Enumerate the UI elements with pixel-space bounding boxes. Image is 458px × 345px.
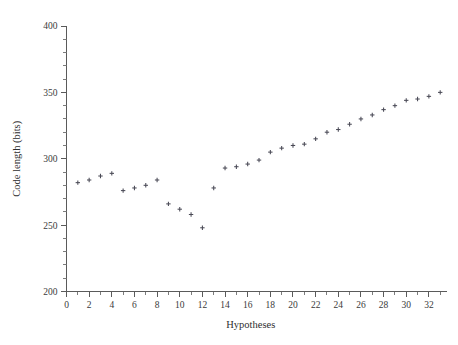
y-axis-tick-label: 250 bbox=[43, 221, 58, 231]
data-point bbox=[87, 178, 91, 182]
data-point bbox=[347, 122, 351, 126]
data-point bbox=[245, 162, 249, 166]
x-axis: 02468101214161820222426283032 bbox=[64, 292, 447, 311]
data-point bbox=[234, 165, 238, 169]
data-point bbox=[438, 90, 442, 94]
data-point bbox=[110, 171, 114, 175]
x-axis-tick-label: 6 bbox=[132, 300, 137, 310]
x-axis-tick-label: 12 bbox=[198, 300, 208, 310]
data-point bbox=[121, 188, 125, 192]
data-point bbox=[381, 107, 385, 111]
x-axis-tick-label: 28 bbox=[379, 300, 389, 310]
data-point bbox=[336, 127, 340, 131]
y-axis-title: Code length (bits) bbox=[11, 120, 23, 196]
x-axis-tick-label: 8 bbox=[155, 300, 160, 310]
data-point bbox=[132, 186, 136, 190]
data-point bbox=[404, 98, 408, 102]
data-point bbox=[370, 113, 374, 117]
x-axis-tick-label: 10 bbox=[175, 300, 185, 310]
x-axis-tick-label: 20 bbox=[288, 300, 298, 310]
data-point bbox=[178, 207, 182, 211]
data-point bbox=[200, 226, 204, 230]
data-point bbox=[98, 174, 102, 178]
x-axis-tick-label: 2 bbox=[87, 300, 92, 310]
y-axis-tick-label: 350 bbox=[43, 88, 58, 98]
data-point bbox=[325, 130, 329, 134]
x-axis-tick-label: 26 bbox=[356, 300, 366, 310]
x-axis-title: Hypotheses bbox=[226, 319, 275, 330]
data-point bbox=[76, 180, 80, 184]
x-axis-tick-label: 30 bbox=[401, 300, 411, 310]
x-axis-tick-label: 0 bbox=[64, 300, 69, 310]
y-axis: 200250300350400 bbox=[43, 21, 66, 297]
data-point bbox=[291, 143, 295, 147]
x-axis-tick-label: 14 bbox=[220, 300, 230, 310]
data-point bbox=[189, 212, 193, 216]
data-point bbox=[166, 202, 170, 206]
data-point bbox=[427, 94, 431, 98]
data-point bbox=[313, 137, 317, 141]
data-point bbox=[415, 97, 419, 101]
y-axis-tick-label: 400 bbox=[43, 21, 58, 31]
y-axis-tick-label: 300 bbox=[43, 154, 58, 164]
data-point bbox=[155, 178, 159, 182]
data-point bbox=[359, 117, 363, 121]
data-point bbox=[279, 146, 283, 150]
data-point bbox=[223, 166, 227, 170]
x-axis-tick-label: 22 bbox=[311, 300, 321, 310]
x-axis-tick-label: 18 bbox=[266, 300, 276, 310]
y-axis-tick-label: 200 bbox=[43, 287, 58, 297]
data-point bbox=[257, 158, 261, 162]
data-point bbox=[144, 183, 148, 187]
data-point bbox=[302, 142, 306, 146]
scatter-chart-figure: 200250300350400 024681012141618202224262… bbox=[0, 0, 458, 345]
chart-canvas: 200250300350400 024681012141618202224262… bbox=[0, 0, 458, 345]
data-point bbox=[212, 186, 216, 190]
x-axis-tick-label: 16 bbox=[243, 300, 253, 310]
x-axis-tick-label: 4 bbox=[109, 300, 114, 310]
x-axis-tick-label: 32 bbox=[424, 300, 434, 310]
data-point bbox=[268, 150, 272, 154]
data-point bbox=[393, 103, 397, 107]
data-point-series bbox=[76, 90, 443, 230]
x-axis-tick-label: 24 bbox=[334, 300, 344, 310]
